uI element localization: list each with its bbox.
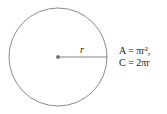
center-point: [56, 55, 60, 59]
area-formula: A = πr²,: [119, 45, 150, 56]
circumference-formula: C = 2πr: [119, 57, 150, 68]
radius-label: r: [80, 44, 84, 55]
